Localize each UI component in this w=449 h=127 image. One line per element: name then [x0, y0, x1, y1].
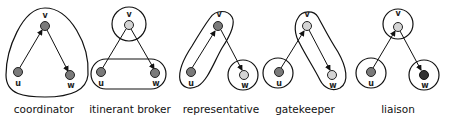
edge-u-v — [281, 31, 304, 68]
panel-liaison: v u w liaison — [356, 9, 439, 115]
edge-v-w — [400, 31, 421, 70]
node-w — [66, 71, 75, 80]
node-label-u: u — [368, 79, 374, 88]
panel-label: representative — [183, 103, 260, 115]
node-label-v: v — [216, 10, 222, 19]
node-v — [41, 22, 50, 31]
node-label-w: w — [152, 79, 160, 88]
node-v — [214, 22, 223, 31]
node-v — [394, 23, 403, 32]
node-label-w: w — [421, 81, 429, 90]
node-label-w: w — [67, 81, 75, 90]
panel-representative: v u w representative — [180, 10, 260, 115]
edge-u-v — [373, 31, 395, 68]
node-w — [151, 69, 160, 78]
edge-u-v — [19, 30, 42, 69]
panel-label: gatekeeper — [275, 103, 335, 115]
node-label-u: u — [15, 79, 21, 88]
node-u — [187, 68, 196, 77]
edge-u-v — [102, 29, 126, 69]
edge-v-w — [221, 30, 242, 70]
node-label-v: v — [395, 9, 401, 18]
node-label-v: v — [42, 11, 48, 20]
node-w — [240, 71, 249, 80]
node-label-w: w — [241, 81, 249, 90]
node-u — [14, 68, 23, 77]
panel-gatekeeper: v u w gatekeeper — [263, 10, 346, 115]
node-label-u: u — [276, 79, 282, 88]
edge-u-v — [192, 31, 215, 68]
group-outline-uv — [180, 12, 234, 89]
node-u — [275, 68, 284, 77]
node-v — [125, 21, 134, 30]
brokerage-diagram: v u w coordinator v u w itinerant broker… — [0, 0, 449, 127]
panel-label: liaison — [381, 103, 415, 115]
node-u — [367, 68, 376, 77]
edge-v-w — [309, 30, 330, 70]
node-v — [303, 22, 312, 31]
node-u — [97, 68, 106, 77]
panel-itinerant-broker: v u w itinerant broker — [89, 7, 171, 115]
node-w — [420, 71, 429, 80]
panel-coordinator: v u w coordinator — [6, 8, 88, 115]
node-label-u: u — [98, 79, 104, 88]
node-label-v: v — [126, 10, 132, 19]
panel-label: coordinator — [14, 103, 75, 115]
edge-v-w — [47, 30, 68, 71]
panel-label: itinerant broker — [89, 103, 171, 115]
node-label-w: w — [329, 81, 337, 90]
node-w — [328, 71, 337, 80]
node-label-u: u — [188, 79, 194, 88]
node-label-v: v — [304, 10, 310, 19]
